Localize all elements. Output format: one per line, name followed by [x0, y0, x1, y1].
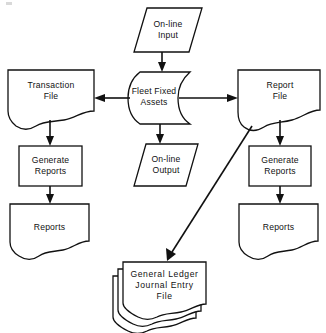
shape-reports-right[interactable]: [239, 204, 318, 259]
shape-online-output[interactable]: [134, 144, 198, 186]
shape-report-file[interactable]: [238, 70, 320, 130]
shape-transaction-file[interactable]: [8, 70, 94, 129]
shape-generate-reports-left[interactable]: [19, 146, 82, 186]
shape-generate-reports-right[interactable]: [249, 146, 311, 186]
shape-reports-left[interactable]: [10, 204, 89, 259]
connector-generate-left-to-reports-left: [46, 186, 54, 204]
connector-generate-right-to-reports-right: [276, 186, 284, 204]
flowchart-canvas: On-line Input Transaction File Fleet Fix…: [0, 0, 326, 333]
shape-online-input[interactable]: [134, 8, 202, 52]
connector-transaction-to-generate-left: [46, 120, 54, 146]
connector-fleet-to-output: [156, 124, 164, 144]
connector-input-to-fleet: [158, 52, 166, 72]
connector-report-to-generate-right: [276, 120, 284, 146]
connector-fleet-to-transaction: [94, 94, 130, 102]
flowchart-graphics: [0, 0, 326, 333]
connector-fleet-to-report: [179, 94, 238, 102]
